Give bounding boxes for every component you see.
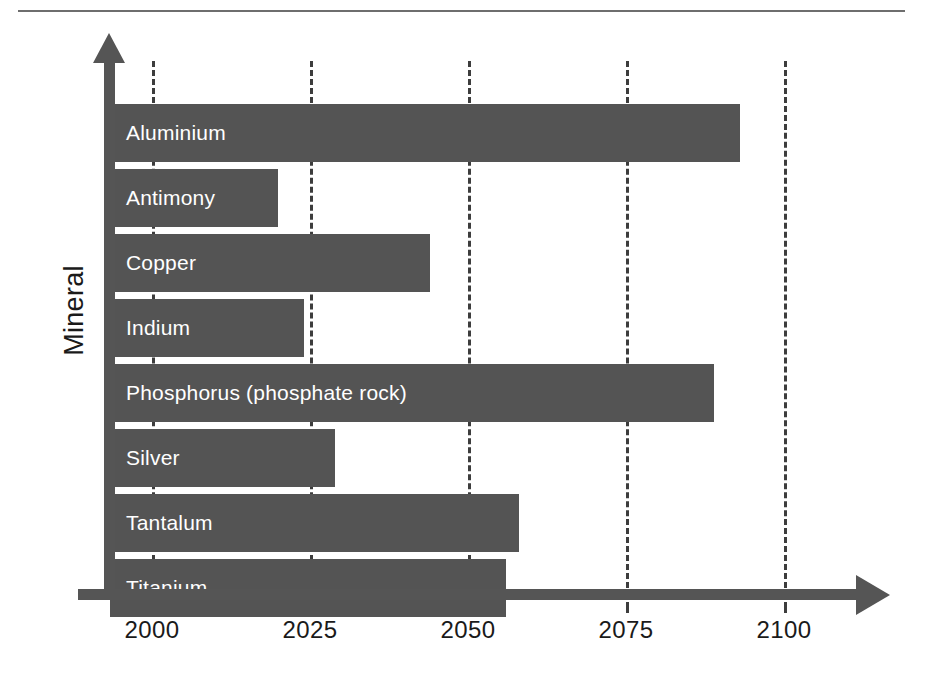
y-axis-arrow-icon [93, 33, 125, 63]
bar-indium: Indium [110, 299, 304, 357]
gridline-2100 [784, 61, 787, 588]
x-axis-line [78, 589, 862, 600]
bar-label: Silver [110, 446, 180, 470]
bar-label: Tantalum [110, 511, 213, 535]
bar-tantalum: Tantalum [110, 494, 519, 552]
bar-label: Phosphorus (phosphate rock) [110, 381, 407, 405]
y-axis-title: Mineral [59, 251, 90, 371]
bar-aluminium: Aluminium [110, 104, 740, 162]
chart-page: AluminiumAntimonyCopperIndiumPhosphorus … [0, 0, 930, 674]
bar-phosphorus-phosphate-rock: Phosphorus (phosphate rock) [110, 364, 714, 422]
y-axis-line [104, 60, 115, 597]
bar-label: Indium [110, 316, 190, 340]
bar-label: Aluminium [110, 121, 226, 145]
bar-label: Copper [110, 251, 196, 275]
x-tick-label-2100: 2100 [757, 616, 812, 644]
bar-label: Antimony [110, 186, 215, 210]
x-tick-label-2050: 2050 [441, 616, 496, 644]
x-tick-2075 [626, 602, 629, 613]
bar-antimony: Antimony [110, 169, 278, 227]
bar-copper: Copper [110, 234, 430, 292]
bar-titanium: Titanium [110, 559, 506, 617]
x-tick-2100 [784, 602, 787, 613]
bar-silver: Silver [110, 429, 335, 487]
plot-area: AluminiumAntimonyCopperIndiumPhosphorus … [0, 0, 930, 674]
x-axis-arrow-icon [856, 575, 890, 615]
x-tick-label-2000: 2000 [125, 616, 180, 644]
x-tick-label-2075: 2075 [599, 616, 654, 644]
x-tick-label-2025: 2025 [283, 616, 338, 644]
